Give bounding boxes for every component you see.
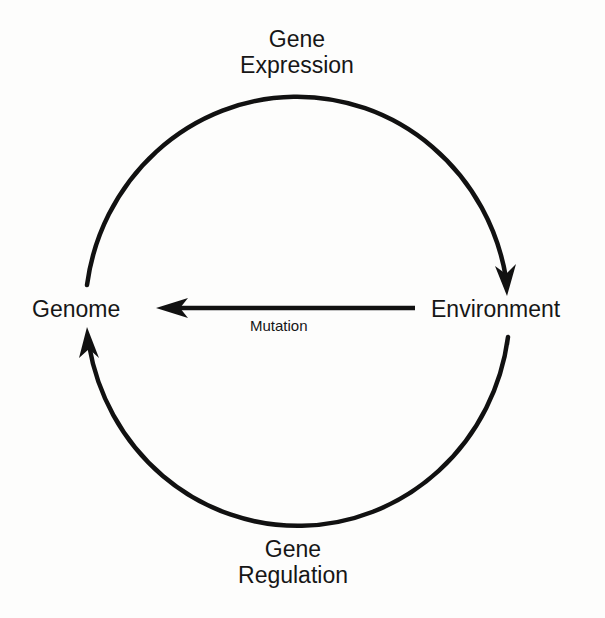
gene-regulation-label: Gene Regulation [218,536,368,589]
gene-regulation-label-line2: Regulation [218,562,368,588]
mutation-label: Mutation [250,317,308,334]
gene-expression-arc [87,97,506,285]
genome-node-label: Genome [32,296,120,322]
gene-expression-label: Gene Expression [222,26,372,79]
gene-regulation-arc [89,337,508,526]
diagram-canvas: Gene Expression Genome Environment Mutat… [0,0,605,618]
gene-regulation-label-line1: Gene [218,536,368,562]
gene-expression-label-line1: Gene [222,26,372,52]
gene-expression-label-line2: Expression [222,52,372,78]
environment-node-label: Environment [431,296,560,322]
